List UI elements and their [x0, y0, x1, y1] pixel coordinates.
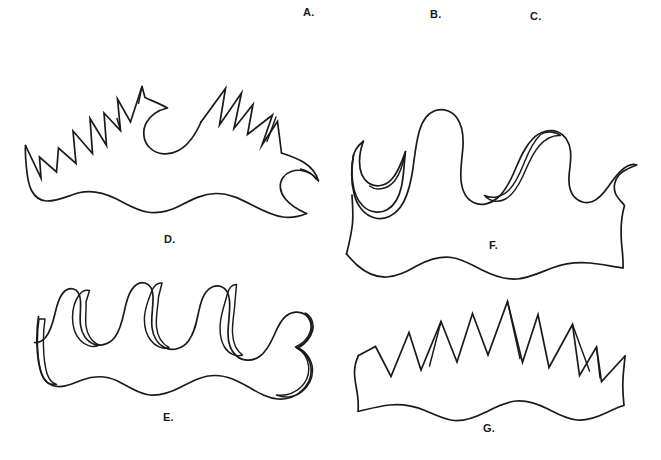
- figure-caption-d: D.: [164, 234, 175, 245]
- figure-F-right-tip: [614, 165, 636, 268]
- figure-caption-f: F.: [489, 240, 498, 251]
- figure-caption-g: G.: [483, 423, 495, 434]
- figure-caption-e: E.: [163, 412, 174, 423]
- header-label-c: C.: [530, 11, 541, 22]
- figure-G-detail-stroke-2: [508, 302, 521, 359]
- figure-F-base-edge: [347, 254, 624, 279]
- figure-E-outline: [35, 283, 314, 399]
- plate-drawing-canvas: [0, 0, 661, 460]
- figure-G-teeth: [359, 302, 626, 382]
- figure-D-right-spikes: [201, 89, 282, 154]
- figure-F-base-left: [347, 195, 353, 254]
- figure-F-outline: [347, 110, 637, 280]
- figure-F-inner-line-2: [485, 132, 561, 201]
- figure-G-outline: [355, 302, 626, 421]
- figure-D-left-spikes: [26, 87, 143, 179]
- figure-plate: A. B. C. D. E. F. G.: [0, 0, 661, 460]
- figure-D-central-curl: [142, 87, 201, 154]
- header-label-b: B.: [430, 9, 441, 20]
- figure-D-right-hook: [280, 153, 318, 214]
- figure-D-outline: [25, 87, 318, 218]
- header-label-a: A.: [303, 7, 314, 18]
